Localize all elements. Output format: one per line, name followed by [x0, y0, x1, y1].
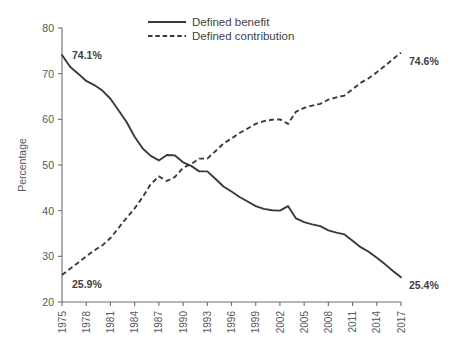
series-line-defined-benefit	[62, 55, 401, 277]
y-tick-label-50: 50	[42, 159, 54, 171]
x-tick-label-1984: 1984	[129, 311, 140, 334]
x-tick-label-1990: 1990	[178, 311, 189, 334]
y-tick-label-60: 60	[42, 113, 54, 125]
chart-container: 80706050403020 1975197819811984198719901…	[0, 0, 459, 356]
x-tick-label-2017: 2017	[396, 311, 407, 334]
y-tick-label-70: 70	[42, 68, 54, 80]
legend-label-defined-benefit: Defined benefit	[192, 16, 270, 28]
y-axis-ticks	[58, 28, 62, 302]
y-tick-label-30: 30	[42, 250, 54, 262]
x-tick-label-2011: 2011	[347, 311, 358, 333]
x-tick-label-1987: 1987	[153, 311, 164, 334]
annotation-74-1-percent: 74.1%	[72, 49, 102, 61]
line-chart: 80706050403020 1975197819811984198719901…	[0, 0, 459, 356]
x-axis-tick-labels: 1975197819811984198719901993199619992002…	[57, 311, 407, 334]
x-axis-ticks	[62, 302, 401, 306]
legend-label-defined-contribution: Defined contribution	[192, 30, 294, 42]
x-tick-label-1996: 1996	[226, 311, 237, 334]
x-tick-label-1978: 1978	[81, 311, 92, 334]
x-tick-label-1975: 1975	[57, 311, 68, 334]
x-tick-label-2008: 2008	[323, 311, 334, 334]
annotation-74-6-percent: 74.6%	[409, 55, 439, 67]
x-tick-label-2002: 2002	[275, 311, 286, 334]
x-tick-label-2014: 2014	[371, 311, 382, 334]
chart-legend: Defined benefit Defined contribution	[148, 16, 294, 42]
x-tick-label-1993: 1993	[202, 311, 213, 334]
y-tick-label-80: 80	[42, 22, 54, 34]
x-tick-label-1981: 1981	[105, 311, 116, 334]
y-tick-label-20: 20	[42, 296, 54, 308]
y-axis-tick-labels: 80706050403020	[42, 22, 54, 308]
y-axis-title: Percentage	[16, 138, 28, 192]
y-tick-label-40: 40	[42, 205, 54, 217]
x-tick-label-2005: 2005	[299, 311, 310, 334]
series-line-defined-contribution	[62, 53, 401, 275]
annotation-25-4-percent: 25.4%	[409, 279, 439, 291]
annotation-25-9-percent: 25.9%	[72, 278, 102, 290]
x-tick-label-1999: 1999	[250, 311, 261, 334]
